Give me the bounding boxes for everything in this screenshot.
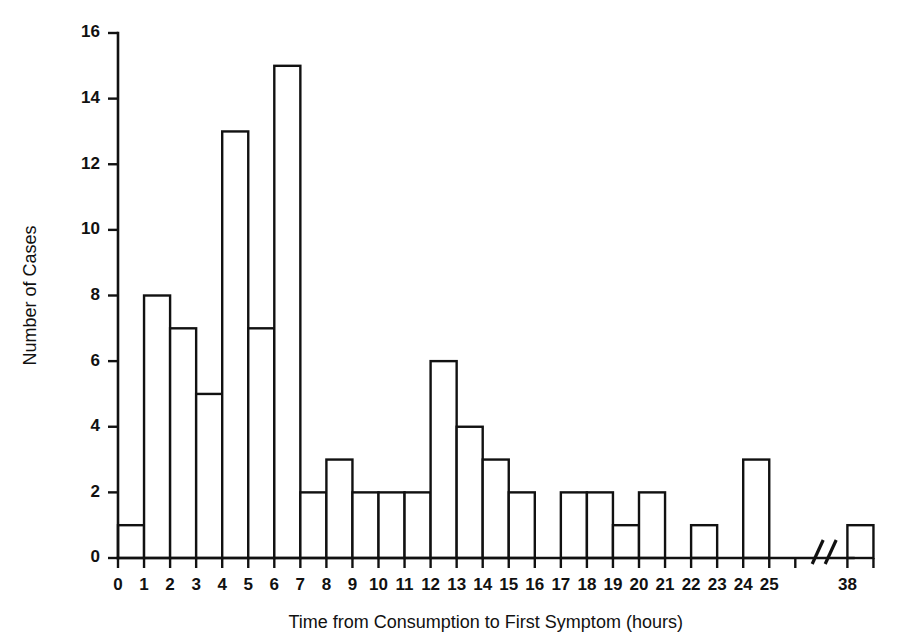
y-tick-label: 4 — [91, 416, 101, 435]
histogram-bar — [144, 296, 170, 559]
y-tick-label: 6 — [91, 351, 100, 370]
histogram-bar — [483, 460, 509, 558]
y-axis-title: Number of Cases — [20, 225, 40, 365]
x-axis-tick-labels: 0123456789101112131415161718192021222324… — [113, 575, 857, 594]
y-tick-label: 12 — [81, 154, 100, 173]
x-tick-label: 15 — [499, 575, 518, 594]
x-tick-label: 25 — [760, 575, 779, 594]
histogram-bar — [457, 427, 483, 558]
y-tick-label: 10 — [81, 219, 100, 238]
y-axis-tick-labels: 0246810121416 — [81, 22, 100, 566]
y-tick-label: 14 — [81, 88, 100, 107]
x-tick-label: 12 — [421, 575, 440, 594]
y-tick-label: 0 — [91, 547, 100, 566]
histogram-bar — [196, 394, 222, 558]
x-tick-label: 22 — [682, 575, 701, 594]
x-tick-label: 38 — [838, 575, 857, 594]
x-axis-ticks — [118, 558, 873, 568]
chart-svg: 0246810121416 01234567891011121314151617… — [0, 0, 914, 639]
x-axis-title: Time from Consumption to First Symptom (… — [288, 612, 682, 632]
x-tick-label: 10 — [369, 575, 388, 594]
histogram-bar — [248, 328, 274, 558]
histogram-chart: 0246810121416 01234567891011121314151617… — [0, 0, 914, 639]
histogram-bar — [431, 361, 457, 558]
x-tick-label: 6 — [270, 575, 279, 594]
x-tick-label: 5 — [244, 575, 253, 594]
x-tick-label: 17 — [551, 575, 570, 594]
x-tick-label: 4 — [217, 575, 227, 594]
x-tick-label: 24 — [734, 575, 753, 594]
histogram-bar — [613, 525, 639, 558]
histogram-bar — [352, 492, 378, 558]
x-tick-label: 18 — [577, 575, 596, 594]
histogram-bar — [847, 525, 873, 558]
y-tick-label: 2 — [91, 482, 100, 501]
x-tick-label: 19 — [603, 575, 622, 594]
histogram-bar — [639, 492, 665, 558]
x-tick-label: 11 — [396, 575, 414, 594]
x-tick-label: 20 — [630, 575, 649, 594]
histogram-bar — [405, 492, 431, 558]
y-tick-label: 8 — [91, 285, 100, 304]
axis-break-mark — [812, 540, 836, 564]
histogram-bar — [326, 460, 352, 558]
histogram-bar — [170, 328, 196, 558]
x-tick-label: 8 — [322, 575, 331, 594]
histogram-bars — [118, 66, 873, 558]
x-tick-label: 16 — [525, 575, 544, 594]
y-tick-label: 16 — [81, 22, 100, 41]
histogram-bar — [300, 492, 326, 558]
x-tick-label: 14 — [473, 575, 492, 594]
x-tick-label: 23 — [708, 575, 727, 594]
histogram-bar — [118, 525, 144, 558]
histogram-bar — [743, 460, 769, 558]
x-tick-label: 3 — [191, 575, 200, 594]
axis-break-slash-2 — [825, 540, 836, 564]
histogram-bar — [509, 492, 535, 558]
x-tick-label: 13 — [447, 575, 466, 594]
x-tick-label: 9 — [348, 575, 357, 594]
x-tick-label: 21 — [656, 575, 675, 594]
axis-break-slash-1 — [812, 540, 823, 564]
histogram-bar — [379, 492, 405, 558]
x-tick-label: 7 — [296, 575, 305, 594]
histogram-bar — [587, 492, 613, 558]
y-axis-ticks — [108, 33, 118, 558]
histogram-bar — [691, 525, 717, 558]
x-tick-label: 1 — [139, 575, 148, 594]
x-tick-label: 2 — [165, 575, 174, 594]
histogram-bar — [274, 66, 300, 558]
x-tick-label: 0 — [113, 575, 122, 594]
histogram-bar — [561, 492, 587, 558]
histogram-bar — [222, 131, 248, 558]
